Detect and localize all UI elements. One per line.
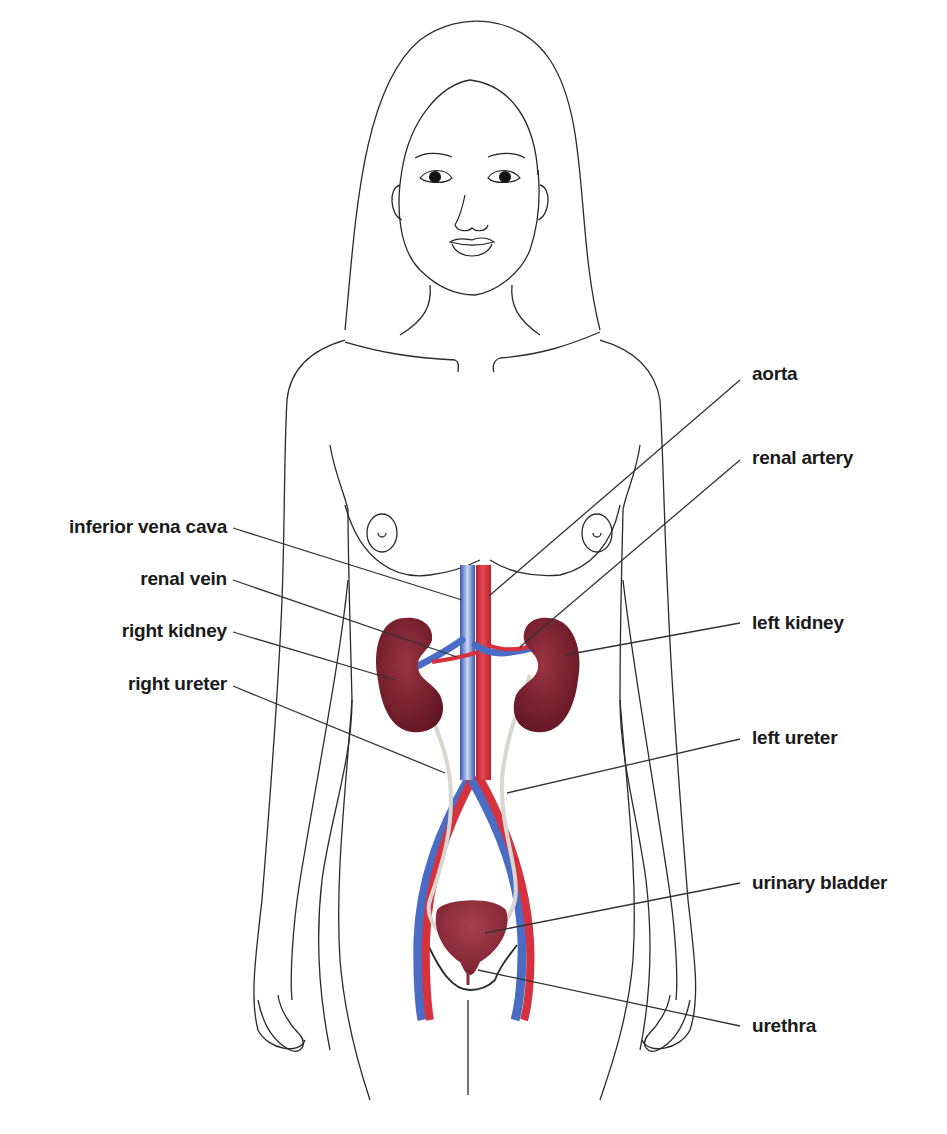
collarbone-left bbox=[345, 342, 458, 372]
label-left-kidney: left kidney bbox=[752, 612, 844, 634]
label-left-ureter: left ureter bbox=[752, 727, 837, 749]
pupil-left bbox=[430, 172, 441, 183]
eyebrow-left bbox=[415, 153, 452, 158]
leader-left-kidney bbox=[565, 623, 740, 655]
left-kidney bbox=[514, 618, 580, 733]
torso-left bbox=[319, 445, 352, 1050]
nipple-left bbox=[367, 514, 397, 552]
urinary-system-diagram bbox=[0, 0, 947, 1134]
inferior-vena-cava bbox=[460, 565, 475, 780]
shoulder-right bbox=[600, 340, 696, 1049]
label-right-ureter: right ureter bbox=[128, 673, 227, 695]
label-renal-vein: renal vein bbox=[140, 568, 227, 590]
label-urinary-bladder: urinary bladder bbox=[752, 872, 887, 894]
hair-outline bbox=[345, 21, 600, 330]
neck-left bbox=[400, 285, 430, 335]
aorta bbox=[476, 565, 491, 780]
right-kidney bbox=[376, 618, 443, 733]
leader-renal-vein bbox=[233, 580, 457, 657]
nose bbox=[455, 195, 488, 231]
collarbone-right bbox=[493, 332, 600, 372]
eyebrow-right bbox=[488, 153, 525, 158]
label-inferior-vena-cava: inferior vena cava bbox=[69, 516, 227, 538]
breast-right bbox=[490, 505, 620, 576]
hair-part-right bbox=[470, 80, 538, 175]
hip-left bbox=[339, 700, 370, 1100]
label-renal-artery: renal artery bbox=[752, 447, 853, 469]
label-aorta: aorta bbox=[752, 363, 797, 385]
leader-right-kidney bbox=[233, 632, 395, 680]
hand-right bbox=[645, 995, 690, 1051]
neck-right bbox=[512, 285, 540, 335]
leader-aorta bbox=[489, 380, 740, 596]
lip-lower bbox=[452, 244, 492, 256]
label-right-kidney: right kidney bbox=[122, 620, 227, 642]
breast-left bbox=[345, 505, 480, 576]
hip-right bbox=[600, 700, 634, 1100]
hand-left bbox=[258, 995, 303, 1051]
leader-renal-artery bbox=[520, 460, 740, 647]
lip-upper bbox=[450, 238, 494, 245]
nipple-right bbox=[582, 514, 612, 552]
hair-part-left bbox=[402, 80, 470, 170]
face-outline bbox=[399, 170, 539, 295]
urinary-system bbox=[376, 565, 580, 1020]
face-features bbox=[415, 153, 525, 256]
pupil-right bbox=[500, 172, 511, 183]
urinary-bladder bbox=[436, 900, 508, 975]
label-urethra: urethra bbox=[752, 1015, 816, 1037]
ear-left bbox=[392, 185, 402, 220]
